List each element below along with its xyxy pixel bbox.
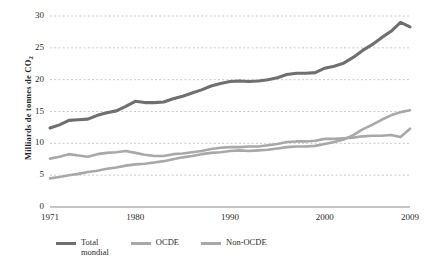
series-line-0	[50, 22, 410, 128]
y-axis-tick-label: 15	[22, 106, 44, 116]
x-axis-tick-label: 2009	[388, 212, 430, 222]
legend-label: OCDE	[156, 238, 179, 248]
y-axis-tick-label: 10	[22, 137, 44, 147]
co2-emissions-line-chart: Milliards de tonnes de CO2 302520151050 …	[0, 0, 430, 268]
x-axis-tick-label: 1980	[113, 212, 157, 222]
legend-item-1[interactable]: OCDE	[131, 238, 179, 248]
legend-label: Total mondial	[81, 238, 109, 257]
x-axis-tick-label: 1990	[208, 212, 252, 222]
y-axis-tick-label: 20	[22, 74, 44, 84]
series-lines	[50, 22, 410, 178]
x-axis-tick-label: 2000	[303, 212, 347, 222]
y-axis-tick-label: 5	[22, 169, 44, 179]
chart-legend: Total mondialOCDENon-OCDE	[56, 238, 267, 257]
y-axis-tick-label: 30	[22, 10, 44, 20]
legend-swatch-icon	[201, 242, 221, 245]
y-axis-tick-label: 25	[22, 42, 44, 52]
series-line-2	[50, 110, 410, 178]
y-axis-tick-label: 0	[22, 201, 44, 211]
legend-swatch-icon	[131, 242, 151, 245]
legend-label: Non-OCDE	[226, 238, 267, 248]
legend-swatch-icon	[56, 242, 76, 245]
x-axis-tick-label: 1971	[28, 212, 72, 222]
plot-area	[50, 16, 410, 207]
legend-item-0[interactable]: Total mondial	[56, 238, 109, 257]
y-axis-title-subscript: 2	[27, 56, 34, 59]
plot-svg	[50, 16, 410, 207]
legend-item-2[interactable]: Non-OCDE	[201, 238, 267, 248]
